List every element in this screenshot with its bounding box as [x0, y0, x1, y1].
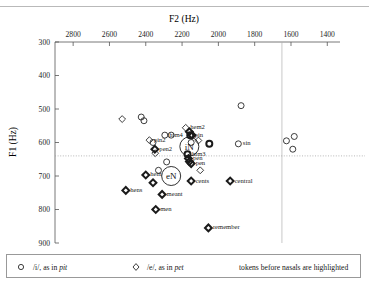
marker-diamond	[122, 187, 129, 194]
x-tick-labels: 28002600240022002000180016001400	[66, 30, 336, 39]
point-label: meant	[167, 190, 183, 197]
marker-diamond	[159, 191, 166, 198]
point-label: hem2	[190, 123, 205, 130]
point-label: cents	[196, 177, 210, 184]
y-tick-label: 500	[39, 105, 51, 114]
y-tick-label: 900	[39, 239, 51, 248]
point-label: him4	[169, 131, 183, 138]
marker-diamond	[205, 225, 212, 232]
marker-circle	[238, 103, 244, 109]
y-axis-ticks	[55, 42, 59, 243]
x-tick-label: 2000	[211, 30, 226, 39]
marker-diamond	[197, 167, 204, 174]
point-label: pin	[195, 131, 204, 138]
legend: /i/, as in pit /e/, as in pet tokens bef…	[6, 254, 361, 278]
legend-label-e: /e/, as in pet	[147, 263, 185, 272]
y-tick-label: 400	[39, 71, 51, 80]
data-markers	[119, 103, 297, 232]
centroid-label: iN	[185, 142, 195, 152]
x-tick-label: 2400	[138, 30, 153, 39]
marker-circle	[283, 138, 289, 144]
marker-circle	[164, 159, 170, 165]
x-tick-label: 1800	[247, 30, 262, 39]
x-tick-label: 2800	[66, 30, 81, 39]
marker-circle	[291, 133, 297, 139]
marker-circle	[290, 146, 296, 152]
x-axis-title: F2 (Hz)	[169, 14, 199, 25]
legend-diamond-icon	[133, 264, 139, 271]
marker-diamond	[188, 178, 195, 185]
marker-diamond	[227, 178, 234, 185]
y-tick-label: 300	[39, 38, 51, 47]
legend-label-i: /i/, as in pit	[33, 263, 68, 272]
point-label: pen	[196, 159, 206, 166]
y-tick-label: 700	[39, 172, 51, 181]
marker-diamond	[119, 116, 126, 123]
y-tick-label: 800	[39, 205, 51, 214]
marker-diamond	[152, 206, 159, 213]
legend-svg: /i/, as in pit /e/, as in pet tokens bef…	[7, 255, 360, 277]
point-label: sin	[243, 139, 251, 146]
point-label: pen2	[159, 145, 172, 152]
legend-note: tokens before nasals are highlighted	[239, 263, 348, 272]
marker-circle	[206, 141, 212, 147]
centroid-label: eN	[166, 171, 177, 181]
y-tick-label: 600	[39, 138, 51, 147]
plot-svg: F2 (Hz) F1 (Hz) 280026002400220020001800…	[0, 0, 369, 250]
point-label: hem	[150, 170, 162, 177]
x-tick-label: 1600	[283, 30, 298, 39]
y-axis-title: F1 (Hz)	[8, 127, 19, 157]
point-label: hens	[130, 186, 143, 193]
marker-diamond	[142, 172, 149, 179]
x-tick-label: 1400	[320, 30, 335, 39]
point-label: remember	[213, 223, 241, 230]
scatter-plot-figure: F2 (Hz) F1 (Hz) 280026002400220020001800…	[0, 0, 369, 285]
point-label: men	[160, 205, 172, 212]
marker-circle	[235, 141, 241, 147]
legend-circle-icon	[18, 264, 23, 269]
y-tick-labels: 300400500600700800900	[39, 38, 51, 248]
marker-diamond	[150, 179, 157, 186]
x-tick-label: 2200	[174, 30, 189, 39]
point-label: pin2	[154, 136, 166, 143]
point-label: central	[235, 177, 253, 184]
x-tick-label: 2600	[102, 30, 117, 39]
x-axis-ticks	[73, 42, 327, 46]
